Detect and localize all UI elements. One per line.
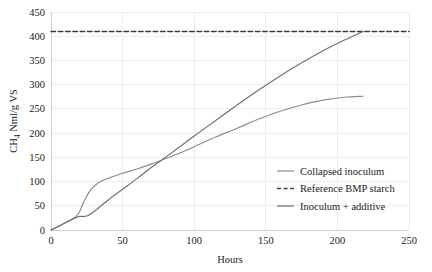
legend-label: Reference BMP starch [300,183,395,194]
x-tick-label: 0 [48,235,53,246]
legend-label: Collapsed inoculum [300,166,384,177]
y-tick-label: 100 [29,176,45,187]
y-tick-label: 450 [29,7,45,18]
line-chart: 050100150200250300350400450 050100150200… [0,0,432,272]
y-tick-label: 300 [29,79,45,90]
gridlines [51,12,409,230]
svg-text:CH4 Nml/g VS: CH4 Nml/g VS [8,89,22,153]
y-axis-title: CH4 Nml/g VS [8,89,22,153]
x-tick-label: 150 [258,235,274,246]
y-tick-label: 0 [40,225,45,236]
chart-legend: Collapsed inoculumReference BMP starchIn… [277,166,395,212]
y-tick-label: 200 [29,128,45,139]
y-axis-tick-labels: 050100150200250300350400450 [29,7,45,236]
y-tick-label: 250 [29,103,45,114]
legend-label: Inoculum + additive [300,201,386,212]
y-tick-label: 350 [29,55,45,66]
axis-lines [51,12,409,230]
x-axis-tick-labels: 050100150200250 [48,235,417,246]
x-tick-label: 100 [186,235,202,246]
y-tick-label: 400 [29,31,45,42]
x-tick-label: 250 [401,235,417,246]
x-tick-label: 200 [330,235,346,246]
x-axis-title: Hours [217,254,243,265]
chart-figure: 050100150200250300350400450 050100150200… [0,0,432,272]
x-tick-label: 50 [117,235,128,246]
y-tick-label: 50 [35,200,46,211]
y-tick-label: 150 [29,152,45,163]
